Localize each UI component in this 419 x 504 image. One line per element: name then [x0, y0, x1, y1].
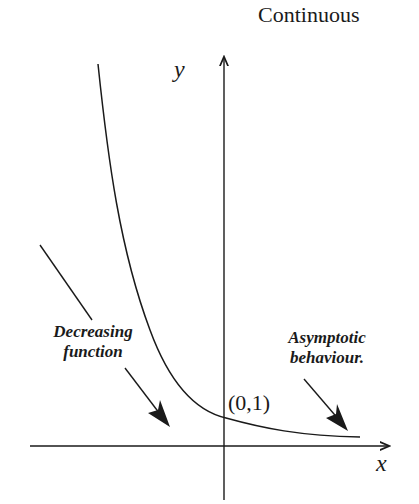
intercept-label: (0,1)	[228, 390, 270, 416]
leader-line	[40, 245, 92, 320]
x-axis-label: x	[376, 450, 387, 477]
decreasing-arrow-head	[148, 400, 170, 427]
asymptotic-line2: behaviour.	[272, 348, 382, 368]
diagram-canvas	[0, 0, 419, 504]
diagram-title: Continuous	[258, 2, 359, 28]
decreasing-annotation: Decreasing function	[34, 322, 152, 362]
asymptotic-annotation: Asymptotic behaviour.	[272, 328, 382, 368]
decreasing-line2: function	[34, 342, 152, 362]
decay-curve	[98, 64, 360, 437]
y-axis-label: y	[174, 56, 185, 83]
asymptotic-line1: Asymptotic	[272, 328, 382, 348]
decreasing-line1: Decreasing	[34, 322, 152, 342]
